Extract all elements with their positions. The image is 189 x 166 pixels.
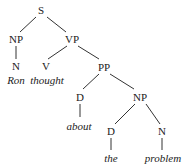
node-n2: N (158, 126, 166, 137)
edge-np2-n2 (146, 104, 160, 124)
node-d2: D (107, 126, 115, 137)
syntax-tree: SNPVPNVPPRonthoughtDNPaboutDNtheproblem (0, 0, 189, 166)
word-problem: problem (145, 153, 181, 164)
node-d1: D (76, 92, 84, 103)
edge-vp-pp (78, 46, 99, 59)
node-n1: N (12, 61, 20, 72)
node-pp: PP (98, 62, 110, 73)
edge-pp-np2 (110, 74, 134, 89)
word-the: the (104, 153, 117, 164)
node-v: V (42, 61, 50, 72)
edge-np2-d2 (115, 104, 135, 124)
word-ron: Ron (7, 75, 25, 86)
node-np2: NP (133, 92, 147, 103)
edge-vp-v (48, 46, 67, 59)
edge-s-vp (47, 17, 66, 32)
edge-s-np1 (20, 17, 36, 32)
node-np1: NP (9, 34, 23, 45)
word-thought: thought (30, 75, 64, 86)
edge-pp-d1 (83, 74, 99, 89)
tree-edges (0, 0, 189, 166)
node-vp: VP (65, 34, 79, 45)
node-s: S (38, 5, 44, 16)
word-about: about (66, 121, 91, 132)
